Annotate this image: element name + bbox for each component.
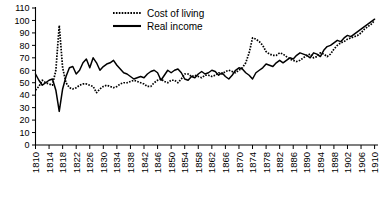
series-line-real-income [36,19,375,111]
y-tick-label: 40 [19,90,29,100]
y-tick-label: 20 [19,115,29,125]
y-tick-label: 100 [14,16,29,26]
x-tick-label: 1910 [369,152,380,173]
x-tick-label: 1830 [98,152,109,173]
x-tick-label: 1858 [193,152,204,173]
x-tick-label: 1882 [274,152,285,173]
x-tick-label: 1838 [125,152,136,173]
x-tick-label: 1878 [261,152,272,173]
y-tick-label: 70 [19,53,29,63]
x-tick-label: 1902 [342,152,353,173]
y-axis-tick-group: 0102030405060708090100110 [14,3,35,150]
x-tick-label: 1898 [329,152,340,173]
y-tick-label: 0 [24,140,29,150]
legend-label-real-income: Real income [147,21,203,32]
chart-legend: Cost of living Real income [113,8,204,32]
x-tick-label: 1890 [301,152,312,173]
series-line-cost-of-living [36,20,375,92]
x-tick-label: 1834 [111,152,122,173]
x-tick-label: 1854 [179,152,190,173]
y-tick-label: 110 [15,3,29,13]
x-tick-label: 1818 [57,152,68,173]
x-tick-label: 1862 [206,152,217,173]
x-axis-tick-group: 1810181418181822182618301834183818421846… [30,145,380,173]
y-tick-label: 50 [19,78,29,88]
y-tick-label: 80 [19,41,29,51]
x-tick-label: 1822 [71,152,82,173]
x-tick-label: 1870 [234,152,245,173]
x-tick-label: 1906 [356,152,367,173]
y-tick-label: 10 [19,128,29,138]
x-tick-label: 1846 [152,152,163,173]
x-tick-label: 1842 [139,152,150,173]
x-tick-label: 1886 [288,152,299,173]
x-tick-label: 1810 [30,152,41,173]
y-tick-label: 60 [19,66,29,76]
y-tick-label: 90 [19,28,29,38]
legend-label-cost-of-living: Cost of living [147,8,204,19]
x-tick-label: 1874 [247,152,258,173]
x-tick-label: 1826 [84,152,95,173]
x-tick-label: 1866 [220,152,231,173]
x-tick-label: 1850 [166,152,177,173]
y-tick-label: 30 [19,103,29,113]
x-tick-label: 1894 [315,152,326,173]
chart-figure: 0102030405060708090100110 18101814181818… [0,0,385,200]
x-tick-label: 1814 [44,152,55,173]
